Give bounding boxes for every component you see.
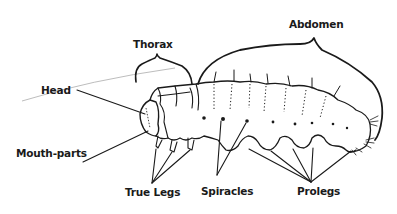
anal-setae (352, 116, 378, 155)
prolegs-pointer-4 (311, 148, 313, 182)
pointer-lines (77, 90, 351, 183)
head-detail (146, 108, 150, 128)
spiracles-pointer-1 (217, 121, 221, 175)
thorax-segments (158, 84, 199, 138)
caterpillar-anatomy-diagram: Thorax Abdomen Head Mouth-parts True Leg… (0, 0, 397, 214)
caterpillar-drawing (0, 0, 397, 214)
abdomen-bracket (198, 38, 382, 140)
prolegs-pointer-5 (311, 151, 351, 182)
prolegs-pointer-2 (271, 151, 311, 182)
head-capsule (140, 100, 159, 136)
true-legs-pointer-3 (152, 150, 190, 183)
prolegs-label: Prolegs (297, 185, 340, 197)
body-ventral-outline (156, 135, 356, 152)
true-legs-label: True Legs (125, 186, 180, 198)
mouth-parts-pointer (83, 131, 148, 162)
mouth-parts-label: Mouth-parts (16, 147, 87, 159)
head-label: Head (41, 84, 71, 96)
abdominal-segment-lines (214, 84, 326, 118)
body-dorsal-outline (150, 81, 371, 152)
thorax-label: Thorax (133, 38, 173, 50)
spiracles-pointer-2 (217, 123, 246, 175)
abdomen-label: Abdomen (289, 18, 344, 30)
spiracles-dots (202, 116, 348, 129)
spiracles-label: Spiracles (201, 185, 253, 197)
thorax-bracket (136, 54, 192, 84)
head-pointer (77, 90, 145, 114)
